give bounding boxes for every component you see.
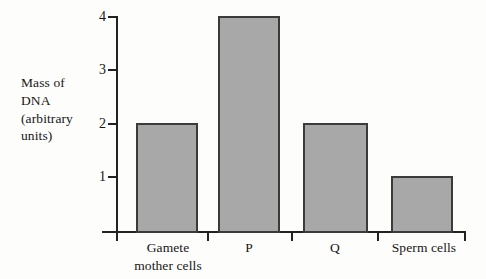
x-label-gamete-line-1: Gamete bbox=[122, 239, 214, 257]
bar-p[interactable] bbox=[218, 16, 280, 233]
bar-q[interactable] bbox=[303, 123, 368, 233]
bar-chart-figure: Mass of DNA (arbitrary units) 4 3 2 1 Ga… bbox=[0, 0, 486, 279]
plot-area bbox=[0, 0, 486, 279]
x-label-p-line-1: P bbox=[214, 239, 284, 257]
x-label-sperm-cells: Sperm cells bbox=[383, 239, 465, 257]
bar-sperm-cells[interactable] bbox=[391, 176, 453, 233]
x-label-gamete-line-2: mother cells bbox=[122, 257, 214, 275]
x-label-q-line-1: Q bbox=[300, 239, 370, 257]
x-label-sperm-line-1: Sperm cells bbox=[383, 239, 465, 257]
bar-gamete-mother-cells[interactable] bbox=[136, 123, 198, 233]
x-label-gamete-mother-cells: Gamete mother cells bbox=[122, 239, 214, 274]
x-label-q: Q bbox=[300, 239, 370, 257]
x-label-p: P bbox=[214, 239, 284, 257]
